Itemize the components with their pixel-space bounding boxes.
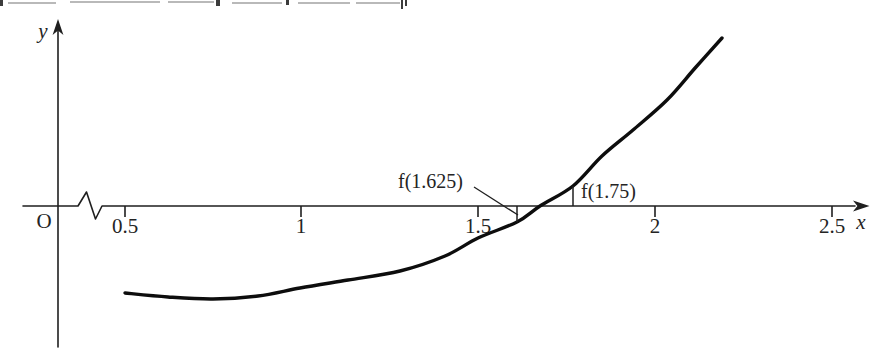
x-axis-label: x [855, 210, 866, 234]
figure-canvas: 0.511.522.5 y O x f(1.625) f(1.75) [0, 0, 894, 357]
origin-label: O [36, 209, 51, 233]
y-axis-label: y [36, 19, 48, 43]
annotation-leader-line [474, 187, 518, 215]
cropped-text-artifact [0, 0, 407, 9]
x-tick-label: 0.5 [112, 214, 138, 238]
x-tick-label: 2 [650, 214, 661, 238]
math-figure: 0.511.522.5 y O x f(1.625) f(1.75) [0, 0, 894, 357]
annotation-f175: f(1.75) [581, 180, 636, 203]
annotation-f1625: f(1.625) [398, 170, 463, 193]
x-tick-label: 2.5 [819, 214, 845, 238]
x-tick-label: 1 [296, 214, 307, 238]
function-curve [125, 38, 722, 299]
x-axis [23, 192, 855, 219]
x-axis-ticks: 0.511.522.5 [112, 206, 845, 238]
